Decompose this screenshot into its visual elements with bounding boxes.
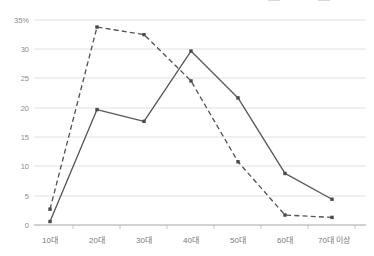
line-chart: 35% 30 25 20 15 10 5 0 10대 20대 30대 40대 5…: [0, 0, 374, 256]
data-point: [95, 108, 98, 111]
y-tick-label-4: 15: [21, 133, 29, 142]
y-tick-label-0: 35%: [14, 16, 29, 25]
x-tick-label-4: 50대: [230, 236, 246, 245]
data-point: [189, 49, 192, 52]
y-tick-label-1: 30: [21, 45, 29, 54]
x-tick-label-5: 60대: [277, 236, 293, 245]
data-point: [142, 33, 145, 36]
data-point: [48, 220, 51, 223]
x-axis-tick-marks: [73, 225, 355, 229]
gridlines: [34, 20, 366, 196]
data-point: [236, 96, 239, 99]
data-point: [95, 25, 98, 28]
series-solid-markers: [48, 49, 333, 223]
y-tick-label-3: 20: [21, 104, 29, 113]
y-tick-label-5: 10: [21, 162, 29, 171]
x-axis-tick-labels: 10대 20대 30대 40대 50대 60대 70대 이상: [42, 235, 351, 245]
y-axis-tick-labels: 35% 30 25 20 15 10 5 0: [14, 16, 29, 230]
x-tick-label-0: 10대: [42, 236, 58, 245]
y-tick-label-7: 0: [25, 221, 29, 230]
data-point: [189, 79, 192, 82]
data-point: [142, 120, 145, 123]
data-point: [330, 216, 333, 219]
x-tick-label-3: 40대: [183, 236, 199, 245]
x-tick-label-2: 30대: [136, 236, 152, 245]
chart-canvas: 35% 30 25 20 15 10 5 0 10대 20대 30대 40대 5…: [0, 0, 374, 256]
data-point: [330, 198, 333, 201]
data-point: [236, 160, 239, 163]
data-point: [48, 207, 51, 210]
y-tick-label-6: 5: [25, 192, 29, 201]
y-tick-label-2: 25: [21, 74, 29, 83]
data-point: [283, 213, 286, 216]
data-point: [283, 172, 286, 175]
x-tick-label-6: 70대 이상: [318, 235, 351, 245]
x-tick-label-1: 20대: [89, 236, 105, 245]
